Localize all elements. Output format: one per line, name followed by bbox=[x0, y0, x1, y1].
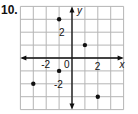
data-point bbox=[96, 95, 100, 99]
data-point bbox=[57, 17, 61, 21]
data-point bbox=[57, 69, 61, 73]
data-point bbox=[31, 82, 35, 86]
x-axis-label: x bbox=[119, 59, 126, 70]
y-axis-up-arrow-icon bbox=[70, 6, 75, 12]
x-tick-label: 2 bbox=[95, 61, 101, 72]
x-tick-label: -2 bbox=[41, 59, 50, 70]
data-point bbox=[83, 43, 87, 47]
y-axis-label: y bbox=[76, 5, 83, 16]
coordinate-plane: xy-222-20 bbox=[0, 0, 138, 114]
y-tick-label: -2 bbox=[54, 79, 63, 90]
origin-label: 0 bbox=[64, 59, 70, 70]
y-tick-label: 2 bbox=[59, 27, 65, 38]
y-axis-down-arrow-icon bbox=[70, 104, 75, 110]
x-axis-left-arrow-icon bbox=[20, 56, 26, 61]
